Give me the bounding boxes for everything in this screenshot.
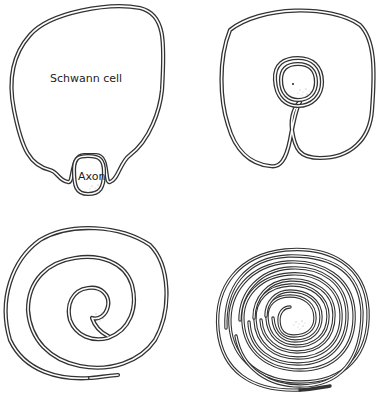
myelination-diagram: Schwann cell Axon [0,0,382,400]
panel-stage-1: Schwann cell Axon [11,6,163,194]
panel-stage-4 [218,249,369,390]
panel-stage-2 [222,11,374,167]
panel-stage-3 [6,228,167,378]
axon-label: Axon [78,170,105,183]
schwann-cell-label: Schwann cell [50,72,122,85]
